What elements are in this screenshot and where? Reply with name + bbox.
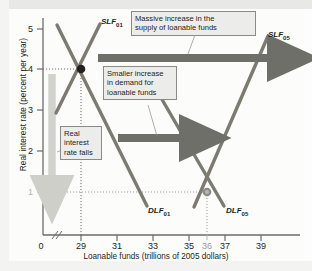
curve-label-slf-2005: SLF05	[268, 30, 290, 41]
demand-shift-callout-line-2: in demand for	[107, 78, 173, 87]
supply-shift-callout: Massive increase in the supply of loanab…	[131, 11, 256, 36]
rate-falls-callout: Real interest rate falls	[60, 126, 102, 160]
chart-canvas	[0, 0, 312, 271]
curve-label-dlf-2001: DLF01	[148, 206, 170, 217]
curve-label-dlf-2005: DLF05	[226, 206, 248, 217]
y-axis-ticks	[37, 29, 43, 192]
supply-shift-callout-line-2: supply of loanable funds	[135, 23, 252, 32]
supply-shift-callout-line-1: Massive increase in the	[135, 14, 252, 23]
demand-shift-callout-line-1: Smaller increase	[107, 69, 173, 78]
curve-label-slf-2001: SLF01	[101, 17, 123, 28]
x-tick-label-31: 31	[106, 241, 128, 251]
equilibrium-point-2005-inner	[205, 190, 209, 194]
y-tick-label-1: 1	[19, 187, 33, 197]
y-tick-label-5: 5	[19, 24, 33, 34]
y-tick-label-4: 4	[19, 64, 33, 74]
x-axis-title: Loanable funds (trillions of 2005 dollar…	[0, 252, 312, 261]
curve-label-dlf-2005-text: DLF	[226, 206, 242, 215]
curve-dlf-2001	[57, 25, 147, 206]
rate-falls-callout-line-3: rate falls	[64, 148, 98, 157]
curve-label-slf-2001-sub: 01	[116, 22, 123, 28]
figure-loanable-funds-market: Real interest rate (percent per year) Lo…	[0, 0, 312, 271]
curve-label-dlf-2005-sub: 05	[242, 211, 249, 217]
demand-shift-callout: Smaller increase in demand for loanable …	[103, 66, 177, 100]
x-tick-label-29: 29	[70, 241, 92, 251]
curve-label-slf-2005-sub: 05	[283, 35, 290, 41]
curve-dlf-2005	[160, 96, 224, 206]
y-tick-label-2: 2	[19, 146, 33, 156]
x-tick-label-0: 0	[30, 241, 52, 251]
curve-label-slf-2005-text: SLF	[268, 30, 283, 39]
curve-label-dlf-2001-sub: 01	[164, 211, 171, 217]
equilibrium-point-2001	[77, 65, 86, 74]
x-tick-label-37: 37	[214, 241, 236, 251]
curve-label-dlf-2001-text: DLF	[148, 206, 164, 215]
y-tick-label-3: 3	[19, 105, 33, 115]
demand-shift-callout-line-3: loanable funds	[107, 88, 173, 97]
curve-label-slf-2001-text: SLF	[101, 17, 116, 26]
rate-falls-callout-line-2: interest	[64, 138, 98, 147]
x-tick-label-39: 39	[250, 241, 272, 251]
rate-falls-callout-line-1: Real	[64, 129, 98, 138]
x-tick-label-33: 33	[142, 241, 164, 251]
